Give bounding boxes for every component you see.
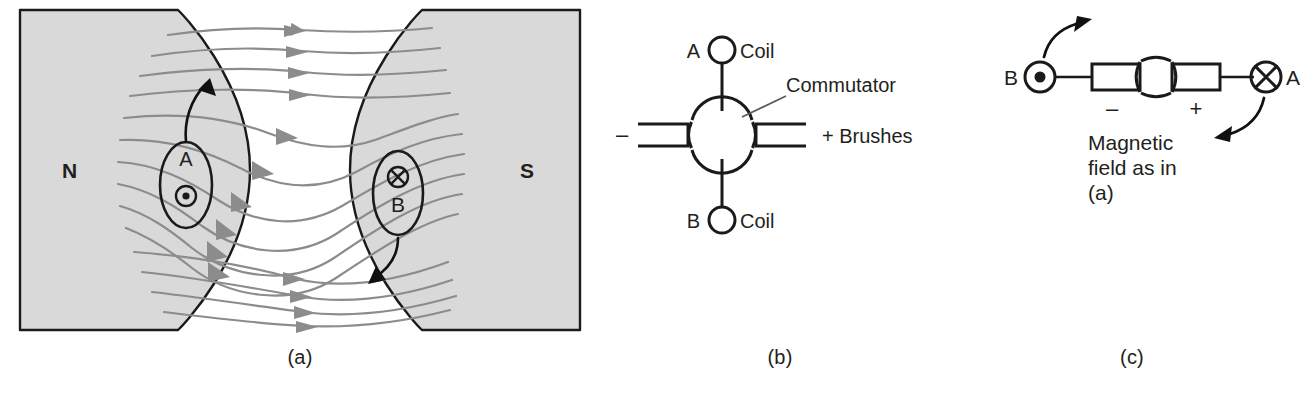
brushes-label: + Brushes bbox=[822, 125, 913, 147]
brush-positive-group: + Brushes bbox=[756, 124, 913, 147]
commutator-group-c bbox=[1136, 57, 1175, 96]
panel-c-drawing: B – + bbox=[960, 0, 1304, 340]
note-line-1: Magnetic bbox=[1088, 131, 1173, 154]
coil-b-group: B Coil bbox=[687, 159, 775, 233]
motor-principle-figure: N S bbox=[0, 0, 1304, 397]
coil-b-circle bbox=[709, 207, 735, 233]
coil-b-text: Coil bbox=[740, 210, 774, 232]
conductor-b-group-c: B bbox=[1004, 16, 1092, 92]
note-line-3: (a) bbox=[1088, 181, 1114, 204]
panel-b-caption: (b) bbox=[600, 346, 960, 369]
commutator-bottom-segment-c bbox=[1141, 93, 1171, 97]
south-pole-magnet bbox=[350, 10, 580, 330]
force-arrow-a-down-c bbox=[1214, 98, 1264, 142]
coil-b-label: B bbox=[687, 210, 700, 232]
brush-positive-shape-c bbox=[1172, 64, 1220, 90]
conductor-a-group-c: A bbox=[1214, 62, 1300, 142]
brush-negative-group: – bbox=[616, 122, 688, 147]
panel-a-caption: (a) bbox=[0, 346, 600, 369]
brush-negative-shape-c bbox=[1092, 64, 1140, 90]
coil-a-circle bbox=[709, 37, 735, 63]
commutator-label: Commutator bbox=[786, 74, 896, 96]
panel-b-commutator-schematic: A Coil Commutator – bbox=[600, 0, 960, 397]
brush-negative-group-c: – bbox=[1092, 64, 1140, 121]
panel-c-rotated-commutator: B – + bbox=[960, 0, 1304, 397]
brush-positive-shape bbox=[756, 124, 806, 146]
negative-terminal-label: – bbox=[616, 122, 629, 147]
conductor-a-label: A bbox=[179, 148, 193, 170]
magnetic-field-note: Magnetic field as in (a) bbox=[1088, 131, 1177, 204]
negative-terminal-label-c: – bbox=[1106, 96, 1119, 121]
south-pole-label: S bbox=[520, 159, 534, 182]
conductor-b-label-c: B bbox=[1004, 66, 1018, 89]
conductor-b-label: B bbox=[391, 193, 405, 216]
north-pole-label: N bbox=[62, 159, 77, 182]
note-line-2: field as in bbox=[1088, 156, 1177, 179]
conductor-a-label-c: A bbox=[1286, 66, 1300, 89]
brush-positive-group-c: + bbox=[1172, 64, 1220, 121]
coil-a-group: A Coil bbox=[687, 37, 775, 111]
panel-a-drawing: N S bbox=[0, 0, 600, 340]
commutator-leader-line bbox=[742, 96, 786, 117]
current-out-of-page-dot-icon-c bbox=[1035, 72, 1046, 83]
coil-a-text: Coil bbox=[740, 40, 774, 62]
current-into-page-cross-icon-c bbox=[1255, 66, 1276, 87]
commutator-top-segment-c bbox=[1141, 57, 1171, 61]
brush-negative-shape bbox=[638, 124, 688, 146]
panel-a-magnetic-field: N S bbox=[0, 0, 600, 397]
coil-a-label: A bbox=[687, 40, 701, 62]
panel-c-caption: (c) bbox=[960, 346, 1304, 369]
positive-terminal-label-c: + bbox=[1190, 96, 1203, 121]
panel-b-drawing: A Coil Commutator – bbox=[600, 0, 960, 340]
force-arrow-b-up-c bbox=[1044, 16, 1092, 57]
